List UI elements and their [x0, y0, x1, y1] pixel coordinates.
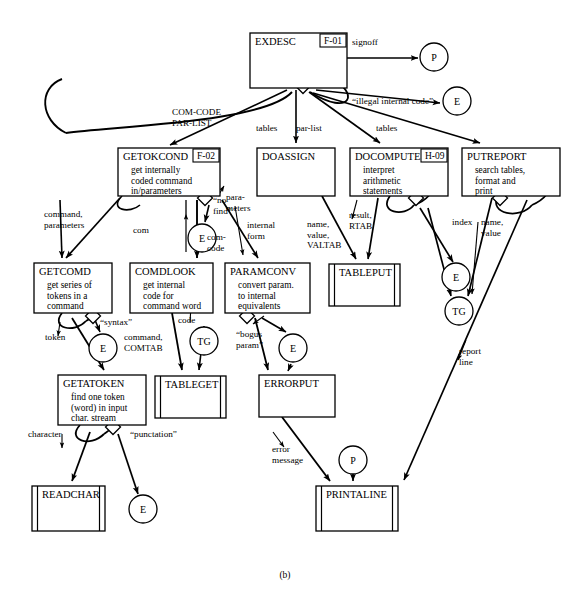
module-putreport[interactable]: PUTREPORTsearch tables,format andprint: [462, 148, 560, 196]
flow-result-rtab: result,RTAB: [349, 210, 372, 231]
flow-error-message: errormessage: [272, 444, 303, 465]
module-desc-line: in/parameters: [131, 186, 182, 196]
flow-bogus-param: “bogusparam”: [236, 329, 263, 350]
iteration-arc-exdesc: [45, 79, 66, 133]
flow-report-line: reportline: [459, 346, 481, 367]
flow-command-parameters: command,parameters: [44, 209, 85, 230]
flow-label-line: tables: [376, 123, 398, 133]
flow-illegal-code: “illegal internal code”: [352, 96, 433, 106]
module-desc-line: tokens in a: [47, 291, 87, 301]
module-name: PARAMCONV: [230, 266, 297, 277]
module-desc-line: (word) in input: [71, 403, 128, 414]
flow-label-line: “no: [213, 195, 227, 205]
module-name: PUTREPORT: [467, 151, 527, 162]
flow-label-line: RTAB: [349, 221, 372, 231]
flow-index: index: [452, 217, 473, 227]
connector-e-top[interactable]: E: [443, 87, 471, 115]
module-readchar[interactable]: READCHAR: [32, 486, 105, 531]
module-desc-line: convert param.: [238, 280, 294, 290]
call-docompute-e: [420, 208, 453, 262]
connector-e-getatok[interactable]: E: [129, 495, 157, 523]
module-desc-line: find one token: [71, 392, 125, 402]
connector-p-print[interactable]: P: [339, 446, 367, 474]
connector-label: E: [199, 233, 205, 244]
module-comdlook[interactable]: COMDLOOKget internalcode forcommand word: [130, 263, 213, 313]
flow-label-line: name,: [307, 219, 329, 229]
structure-chart: EXDESCF-01GETOKCONDF-02get internallycod…: [0, 0, 570, 596]
flow-label-line: tables: [256, 123, 278, 133]
connector-e-doc[interactable]: E: [442, 263, 470, 291]
flow-label-line: “illegal internal code”: [352, 96, 433, 106]
flow-label-line: name,: [481, 217, 503, 227]
module-getatoken[interactable]: GETATOKENfind one token(word) in inputch…: [58, 375, 146, 425]
call-paramconv-e: [262, 318, 286, 332]
module-desc-line: to internal: [238, 291, 276, 301]
connector-tg-mid[interactable]: TG: [190, 327, 218, 355]
flow-label-line: “punctation”: [130, 429, 177, 439]
flow-label-line: com-: [207, 232, 226, 242]
module-getcomd[interactable]: GETCOMDget series oftokens in acommand: [34, 263, 112, 313]
connector-label: P: [431, 52, 437, 63]
module-desc-line: get internal: [143, 280, 185, 290]
flow-label-line: form: [247, 231, 265, 241]
flow-internal-form: internalform: [247, 220, 276, 241]
flow-command-comtab: command,COMTAB: [124, 332, 163, 353]
module-desc-line: code for: [143, 291, 175, 301]
module-printaline[interactable]: PRINTALINE: [316, 486, 398, 531]
flow-label-line: com: [133, 225, 149, 235]
flow-token: token: [45, 332, 66, 342]
flow-label-line: value,: [307, 230, 329, 240]
module-name: TABLEGET: [165, 379, 219, 390]
connector-label: TG: [197, 336, 210, 347]
flow-label-line: result,: [349, 210, 372, 220]
flow-label-line: internal: [247, 220, 276, 230]
module-tableget[interactable]: TABLEGET: [155, 376, 226, 418]
module-ref: F-01: [324, 36, 342, 46]
module-desc-line: search tables,: [475, 165, 525, 175]
module-desc-line: get internally: [131, 165, 181, 175]
module-getokcond[interactable]: GETOKCONDF-02get internallycoded command…: [118, 148, 220, 196]
flow-com-code: com-code: [207, 232, 226, 253]
flow-label-line: “bogus: [236, 329, 262, 339]
flow-par-list: par-list: [296, 123, 322, 133]
flow-label-line: value: [481, 228, 501, 238]
module-errorput[interactable]: ERRORPUT: [259, 375, 335, 417]
module-desc-line: arithmetic: [363, 176, 401, 186]
connector-e-param[interactable]: E: [279, 334, 307, 362]
module-tableput[interactable]: TABLEPUT: [329, 264, 400, 306]
arc-getokcond: [117, 196, 140, 210]
connector-label: E: [140, 504, 146, 515]
flow-label-line: token: [45, 332, 66, 342]
module-name: ERRORPUT: [264, 378, 319, 389]
flow-label-line: command,: [124, 332, 163, 342]
flow-label-line: PAR-LIST: [172, 118, 212, 128]
flow-label-line: “syntax”: [100, 317, 132, 327]
flow-character: character: [28, 429, 62, 439]
module-exdesc[interactable]: EXDESCF-01: [250, 33, 347, 88]
module-name: PRINTALINE: [326, 489, 387, 500]
module-name: GETCOMD: [39, 266, 91, 277]
connector-tg-put[interactable]: TG: [445, 297, 473, 325]
module-doassign[interactable]: DOASSIGN: [257, 148, 335, 196]
connector-e-getcomd[interactable]: E: [89, 334, 117, 362]
module-docompute[interactable]: DOCOMPUTEH-09interpretarithmeticstatemen…: [350, 148, 448, 196]
call-getokcond-e: [205, 205, 209, 222]
connector-label: P: [350, 455, 356, 466]
connector-p-top[interactable]: P: [420, 43, 448, 71]
flow-syntax: “syntax”: [100, 317, 132, 327]
flow-label-line: code: [207, 243, 224, 253]
call-e-errorput: [288, 364, 291, 371]
flow-label-line: COMTAB: [124, 343, 163, 353]
flow-signoff: signoff: [352, 37, 379, 47]
flow-label-line: report: [459, 346, 481, 356]
module-paramconv[interactable]: PARAMCONVconvert param.to internalequiva…: [225, 263, 310, 313]
flow-label-line: VALTAB: [307, 240, 342, 250]
module-desc-line: interpret: [363, 165, 395, 175]
flow-label-line: COM-CODE: [172, 107, 221, 117]
module-name: TABLEPUT: [339, 267, 392, 278]
flow-tables-right: tables: [376, 123, 398, 133]
flow-label-line: par-list: [296, 123, 322, 133]
flow-label-line: signoff: [352, 37, 379, 47]
flow-label-line: para-: [226, 192, 245, 202]
module-name: COMDLOOK: [135, 266, 196, 277]
